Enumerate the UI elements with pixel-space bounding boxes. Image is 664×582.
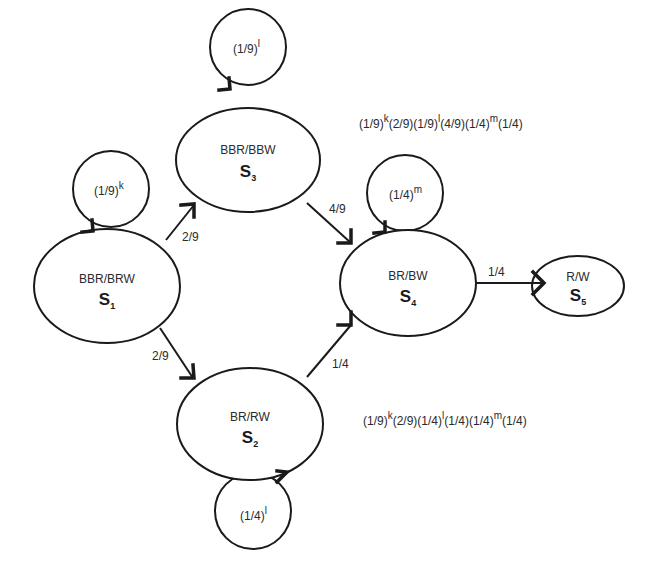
arrow-head-s2-s4: [338, 312, 351, 325]
state-s4-id: S4: [338, 287, 478, 308]
edge-s1-s2-label: 2/9: [152, 349, 169, 363]
state-s4: [340, 230, 476, 336]
state-s5-name: R/W: [508, 270, 648, 284]
state-s1-id: S1: [37, 290, 177, 311]
state-s4-name: BR/BW: [338, 269, 478, 283]
loop-s1-label: (1/9)k: [94, 180, 124, 198]
state-s5-id: S5: [508, 286, 648, 307]
edge-s3-s4-label: 4/9: [329, 202, 346, 216]
loop-s2-label: (1/4)l: [240, 505, 267, 523]
edge-s4-s5-label: 1/4: [488, 265, 505, 279]
state-s2-name: BR/RW: [180, 410, 320, 424]
state-s1: [34, 229, 180, 343]
state-s2: [177, 368, 323, 480]
state-s3-name: BBR/BBW: [178, 143, 318, 157]
state-s1-name: BBR/BRW: [37, 272, 177, 286]
arrow-head-loop-s1: [82, 220, 93, 232]
path-formula-lower: (1/9)k(2/9)(1/4)l(1/4)(1/4)m(1/4): [363, 410, 527, 428]
edge-s1-s3-label: 2/9: [182, 230, 199, 244]
loop-s3-label: (1/9)l: [233, 38, 260, 56]
arrow-head-loop-s3: [219, 78, 230, 90]
edge-s2-s4-label: 1/4: [332, 357, 349, 371]
state-s3-id: S3: [178, 162, 318, 183]
path-formula-upper: (1/9)k(2/9)(1/9)l(4/9)(1/4)m(1/4): [359, 113, 523, 131]
state-s2-id: S2: [180, 428, 320, 449]
loop-s4-label: (1/4)m: [389, 184, 422, 202]
state-s3: [176, 108, 320, 212]
arrow-head-loop-s4: [374, 222, 385, 233]
